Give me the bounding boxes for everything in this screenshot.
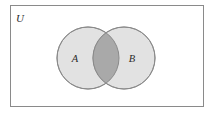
- venn-diagram-figure: U A B: [0, 0, 212, 113]
- set-b-label: B: [129, 53, 136, 64]
- set-a-label: A: [71, 53, 79, 64]
- venn-diagram-canvas: U A B: [0, 0, 212, 113]
- universal-set-label: U: [16, 12, 25, 24]
